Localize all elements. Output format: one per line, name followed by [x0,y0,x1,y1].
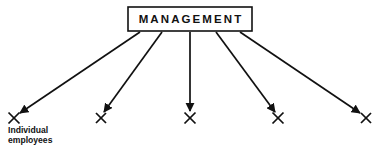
arrow-to-employee-5 [240,32,360,113]
endpoint-layer [9,113,372,124]
org-flow-diagram: MANAGEMENT Individual employees [0,0,383,154]
management-node[interactable]: MANAGEMENT [128,7,252,31]
employee-x-icon [361,113,371,123]
employee-x-icon [96,113,106,123]
management-label: MANAGEMENT [139,13,244,25]
arrow-to-employee-4 [216,32,275,112]
caption-line-2: employees [8,135,53,145]
employee-x-icon [9,113,20,124]
arrow-layer [20,32,360,113]
diagram-canvas: MANAGEMENT Individual employees [0,0,383,154]
individual-employees-caption: Individual employees [8,125,53,145]
employee-x-icon [185,113,196,124]
arrow-to-employee-2 [104,32,162,112]
caption-line-1: Individual [8,125,48,135]
arrow-to-employee-1 [20,32,140,113]
employee-x-icon [273,113,284,124]
